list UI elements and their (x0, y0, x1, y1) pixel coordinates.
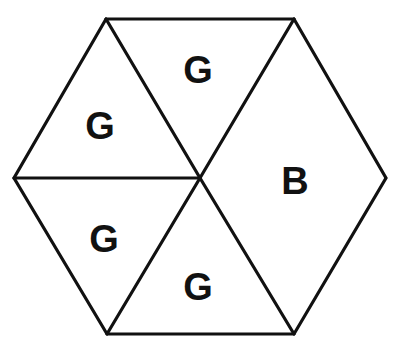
label-upper-left-triangle: G (85, 105, 115, 147)
edge-bottomleft-to-center (107, 178, 200, 334)
label-bottom-triangle: G (183, 266, 213, 308)
hexagon-svg: G G G G B (0, 0, 396, 353)
label-top-triangle: G (183, 49, 213, 91)
hexagon-diagram: G G G G B (0, 0, 396, 353)
edge-bottomright-to-center (200, 178, 294, 334)
label-lower-left-triangle: G (89, 218, 119, 260)
edge-topleft-to-center (106, 19, 200, 178)
label-right-rhombus: B (281, 160, 308, 202)
edge-topright-to-center (200, 19, 294, 178)
